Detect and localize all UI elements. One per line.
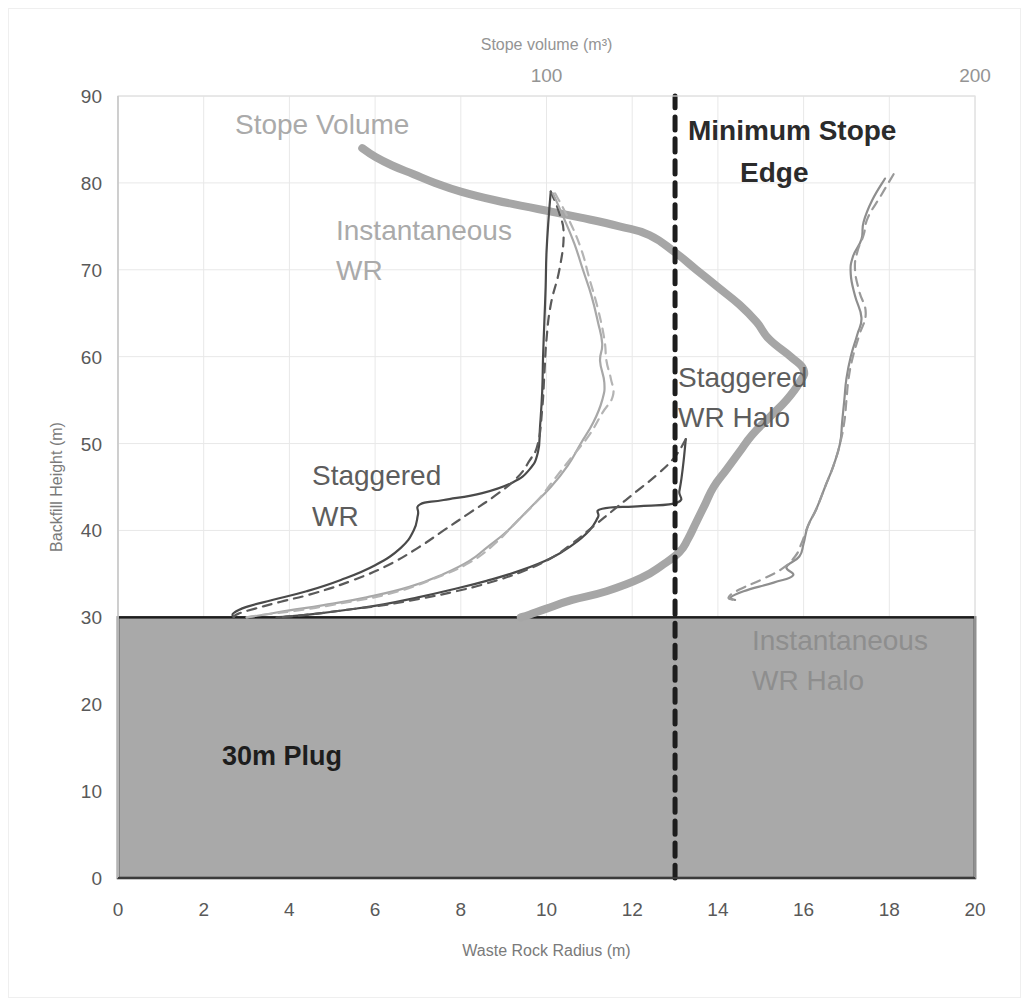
annotation-inst-wr-halo-1: Instantaneous: [752, 625, 928, 656]
annotation-stope-volume: Stope Volume: [235, 109, 409, 140]
annotation-staggered-wr-halo-1: Staggered: [678, 362, 807, 393]
annotation-instantaneous-wr-2: WR: [336, 255, 383, 286]
y-tick-label: 80: [81, 173, 102, 194]
x-tick-label: 4: [284, 899, 295, 920]
x2-axis-title: Stope volume (m³): [481, 36, 613, 53]
y-tick-label: 40: [81, 520, 102, 541]
annotation-staggered-wr-halo-2: WR Halo: [678, 402, 790, 433]
y-tick-label: 0: [91, 868, 102, 889]
series-instantaneous-wr: [247, 193, 605, 617]
annotation-minimum-stope-edge-1: Minimum Stope: [688, 115, 896, 146]
y-tick-label: 20: [81, 694, 102, 715]
chart-plot-area: 0102030405060708090024681012141618201002…: [0, 0, 1031, 1008]
x-tick-label: 12: [622, 899, 643, 920]
x2-tick-label: 100: [531, 65, 563, 86]
y-tick-label: 90: [81, 86, 102, 107]
x-tick-label: 20: [964, 899, 985, 920]
annotation-inst-wr-halo-2: WR Halo: [752, 665, 864, 696]
x-tick-label: 10: [536, 899, 557, 920]
x-tick-label: 6: [370, 899, 381, 920]
annotation-minimum-stope-edge-2: Edge: [740, 157, 808, 188]
x-tick-label: 8: [456, 899, 467, 920]
x-tick-label: 2: [198, 899, 209, 920]
x2-tick-label: 200: [959, 65, 991, 86]
x-tick-label: 18: [879, 899, 900, 920]
annotation-staggered-wr-1: Staggered: [312, 460, 441, 491]
annotation-plug-label: 30m Plug: [222, 741, 342, 771]
x-tick-label: 0: [113, 899, 124, 920]
y-tick-label: 60: [81, 347, 102, 368]
annotation-staggered-wr-2: WR: [312, 501, 359, 532]
x-tick-label: 14: [707, 899, 729, 920]
y-tick-label: 50: [81, 434, 102, 455]
y-tick-label: 10: [81, 781, 102, 802]
annotation-instantaneous-wr-1: Instantaneous: [336, 215, 512, 246]
series-staggered-wr: [232, 192, 550, 618]
y-tick-label: 70: [81, 260, 102, 281]
y-tick-label: 30: [81, 607, 102, 628]
y-axis-title: Backfill Height (m): [48, 422, 65, 552]
chart-root: 0102030405060708090024681012141618201002…: [0, 0, 1031, 1008]
x-tick-label: 16: [793, 899, 814, 920]
x-axis-title: Waste Rock Radius (m): [462, 942, 630, 959]
series-staggered-wr-dashed: [234, 192, 564, 618]
